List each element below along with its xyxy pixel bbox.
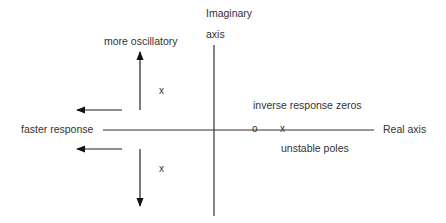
zero-rhp-marker: o (252, 124, 258, 134)
real-axis-label: Real axis (383, 124, 426, 135)
unstable-poles-label: unstable poles (281, 143, 349, 154)
imaginary-axis-label-line2: axis (206, 29, 225, 40)
imaginary-axis-label-line1: Imaginary (206, 8, 252, 19)
pole-lower-marker: x (159, 164, 164, 174)
pole-upper-marker: x (159, 86, 164, 96)
more-oscillatory-label: more oscillatory (104, 36, 178, 47)
pole-rhp-marker: x (280, 124, 285, 134)
faster-response-label: faster response (21, 124, 93, 135)
inverse-response-zeros-label: inverse response zeros (253, 100, 362, 111)
